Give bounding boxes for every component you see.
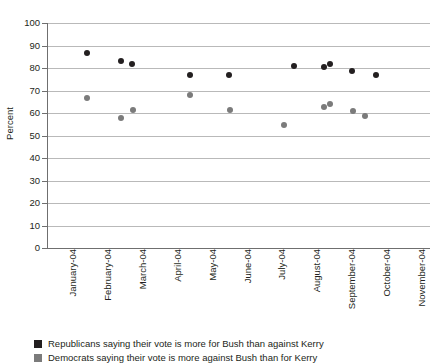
- y-axis-tick: [42, 203, 48, 204]
- y-axis-tick: [42, 226, 48, 227]
- gridline: [47, 113, 430, 114]
- y-axis-tick: [42, 23, 48, 24]
- data-point-dem: [281, 122, 287, 128]
- y-axis-tick-label: 90: [6, 41, 40, 51]
- x-axis-labels: January-04February-04March-04April-04May…: [47, 249, 430, 337]
- legend-swatch-rep: [34, 340, 42, 348]
- data-point-dem: [84, 95, 90, 101]
- data-point-rep: [291, 63, 297, 69]
- gridline: [47, 46, 430, 47]
- y-axis-tick-label: 30: [6, 176, 40, 186]
- y-axis-labels: 0102030405060708090100: [0, 0, 40, 364]
- gridline: [47, 181, 430, 182]
- data-point-dem: [227, 107, 233, 113]
- data-point-dem: [321, 104, 327, 110]
- data-point-rep: [118, 58, 124, 64]
- legend-item-rep: Republicans saying their vote is more fo…: [34, 337, 434, 350]
- y-axis-tick: [42, 136, 48, 137]
- data-point-rep: [187, 72, 193, 78]
- data-point-dem: [130, 107, 136, 113]
- data-point-dem: [187, 92, 193, 98]
- x-axis-tick-label: March-04: [138, 249, 148, 289]
- y-axis-tick: [42, 158, 48, 159]
- y-axis-tick: [42, 113, 48, 114]
- gridline: [47, 91, 430, 92]
- gridline: [47, 158, 430, 159]
- gridline: [47, 68, 430, 69]
- data-point-rep: [321, 64, 327, 70]
- data-point-rep: [349, 68, 355, 74]
- data-point-dem: [118, 115, 124, 121]
- y-axis-title: Percent: [4, 94, 15, 154]
- legend-label: Democrats saying their vote is more agai…: [48, 352, 317, 363]
- data-point-dem: [362, 113, 368, 119]
- y-axis-tick-label: 40: [6, 153, 40, 163]
- y-axis-tick-label: 80: [6, 63, 40, 73]
- x-axis-tick-label: August-04: [312, 249, 322, 292]
- y-axis-tick-label: 0: [6, 243, 40, 253]
- gridline: [47, 136, 430, 137]
- gridline: [47, 226, 430, 227]
- y-axis-tick: [42, 248, 48, 249]
- gridline: [47, 203, 430, 204]
- chart-legend: Republicans saying their vote is more fo…: [34, 337, 434, 364]
- x-axis-tick-label: April-04: [173, 249, 183, 282]
- data-point-rep: [129, 61, 135, 67]
- x-axis-tick-label: January-04: [68, 249, 78, 297]
- data-point-dem: [327, 101, 333, 107]
- y-axis-tick: [42, 68, 48, 69]
- x-axis-tick-label: June-04: [243, 249, 253, 283]
- data-point-rep: [373, 72, 379, 78]
- x-axis-tick-label: October-04: [382, 249, 392, 297]
- x-axis-tick-label: November-04: [417, 249, 427, 307]
- y-axis-tick-label: 10: [6, 221, 40, 231]
- legend-swatch-dem: [34, 354, 42, 362]
- gridline: [47, 23, 430, 24]
- data-point-rep: [226, 72, 232, 78]
- y-axis-tick-label: 20: [6, 198, 40, 208]
- data-point-dem: [350, 108, 356, 114]
- y-axis-tick: [42, 91, 48, 92]
- plot-area: [47, 23, 430, 248]
- data-point-rep: [84, 50, 90, 56]
- x-axis-tick-label: September-04: [347, 249, 357, 309]
- x-axis-tick-label: February-04: [103, 249, 113, 301]
- y-axis-tick-label: 100: [6, 18, 40, 28]
- x-axis-tick-label: May-04: [208, 249, 218, 281]
- legend-label: Republicans saying their vote is more fo…: [48, 338, 324, 349]
- y-axis-tick: [42, 181, 48, 182]
- y-axis-tick: [42, 46, 48, 47]
- legend-item-dem: Democrats saying their vote is more agai…: [34, 351, 434, 364]
- scatter-chart: 0102030405060708090100 Percent January-0…: [0, 0, 442, 364]
- x-axis-tick-label: July-04: [277, 249, 287, 280]
- data-point-rep: [327, 61, 333, 67]
